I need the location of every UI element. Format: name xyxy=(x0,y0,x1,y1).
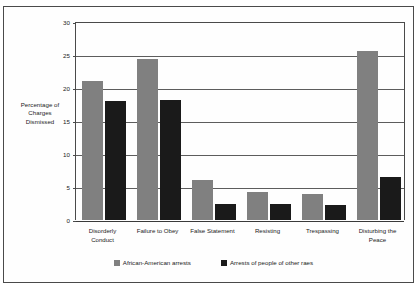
y-axis-tick-label-10: 10 xyxy=(48,151,70,158)
bar-series-container xyxy=(76,22,404,220)
bar-series-0-1[interactable] xyxy=(137,59,158,220)
plot-area xyxy=(75,22,405,220)
gridline-0 xyxy=(76,221,404,222)
bar-series-0-2[interactable] xyxy=(192,180,213,220)
bar-series-0-5[interactable] xyxy=(357,51,378,220)
y-axis-tick-label-25: 25 xyxy=(48,52,70,59)
bar-series-1-0[interactable] xyxy=(105,101,126,220)
y-axis-tick-label-15: 15 xyxy=(48,118,70,125)
x-axis-label-5: Disturbing thePeace xyxy=(340,227,415,244)
bar-group xyxy=(296,22,351,220)
y-axis-tick-label-20: 20 xyxy=(48,85,70,92)
x-axis-label-line: Disturbing the xyxy=(340,227,415,236)
chart-legend: African-American arrests Arrests of peop… xyxy=(4,259,419,266)
bar-group xyxy=(241,22,296,220)
bar-series-1-4[interactable] xyxy=(325,205,346,220)
chart-frame: Percentage of Charges Dismissed 05101520… xyxy=(3,6,414,283)
bar-series-1-1[interactable] xyxy=(160,100,181,220)
legend-item-other-races: Arrests of people of other raes xyxy=(221,259,313,266)
y-axis-tick-mark-0 xyxy=(73,221,76,222)
bar-series-1-3[interactable] xyxy=(270,204,291,220)
bar-series-0-0[interactable] xyxy=(82,81,103,220)
bar-series-1-5[interactable] xyxy=(380,177,401,220)
bar-group xyxy=(351,22,406,220)
legend-label-series-1: Arrests of people of other raes xyxy=(230,259,313,266)
legend-swatch-icon-series-1 xyxy=(221,260,227,266)
bar-series-0-3[interactable] xyxy=(247,192,268,220)
bar-series-1-2[interactable] xyxy=(215,204,236,221)
legend-label-series-0: African-American arrests xyxy=(123,259,191,266)
y-axis-tick-label-30: 30 xyxy=(48,19,70,26)
bar-group xyxy=(131,22,186,220)
bar-series-0-4[interactable] xyxy=(302,194,323,220)
y-axis-label-line-1: Percentage of xyxy=(10,101,70,109)
legend-item-african-american: African-American arrests xyxy=(114,259,191,266)
x-axis-label-line: Conduct xyxy=(65,236,140,245)
bar-group xyxy=(76,22,131,220)
bar-group xyxy=(186,22,241,220)
y-axis-tick-label-5: 5 xyxy=(48,184,70,191)
x-axis-label-line: Peace xyxy=(340,236,415,245)
y-axis-tick-label-0: 0 xyxy=(48,217,70,224)
legend-swatch-icon-series-0 xyxy=(114,260,120,266)
